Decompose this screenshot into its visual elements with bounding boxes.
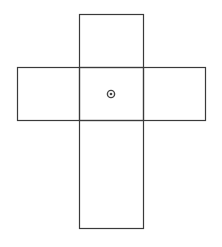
marker-dot-icon [110,93,113,96]
center-dot-icon [107,90,114,97]
face-right [144,68,206,121]
face-left [18,68,80,121]
cube-net-diagram [0,0,222,247]
face-bottom [80,121,144,229]
face-top [80,15,144,68]
cross-shape [18,15,206,229]
